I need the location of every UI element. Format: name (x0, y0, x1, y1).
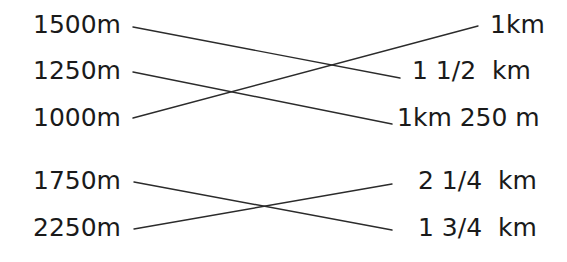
right-label-1km-250m: 1km 250 m (397, 105, 540, 130)
right-label-1km: 1km (490, 12, 545, 37)
connection-line-1750m[interactable] (134, 182, 392, 230)
right-label-2-and-quarter-km: 2 1/4 km (418, 168, 537, 193)
left-label-2250m: 2250m (33, 215, 121, 240)
left-label-1750m: 1750m (33, 168, 121, 193)
left-label-1500m: 1500m (33, 12, 121, 37)
connection-line-1500m[interactable] (133, 27, 400, 78)
right-label-1-and-three-quarter-km: 1 3/4 km (418, 215, 537, 240)
worksheet-canvas: 1500m 1250m 1000m 1km 1 1/2 km 1km 250 m… (0, 0, 567, 262)
left-label-1000m: 1000m (33, 105, 121, 130)
right-label-1-and-half-km: 1 1/2 km (412, 58, 531, 83)
connection-line-2250m[interactable] (134, 184, 392, 229)
left-label-1250m: 1250m (33, 58, 121, 83)
connection-line-1250m[interactable] (133, 72, 392, 124)
